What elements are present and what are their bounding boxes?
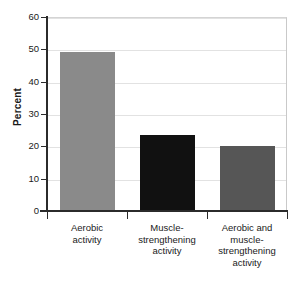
- gridline: [47, 18, 286, 19]
- y-axis-tick-label-wrap: 40: [13, 77, 39, 87]
- x-axis-label-line: activity: [47, 234, 127, 246]
- x-axis-label-line: strengthening: [127, 234, 207, 246]
- y-axis-tick-label-wrap: 20: [13, 141, 39, 151]
- x-axis-label-line: strengthening: [207, 245, 287, 257]
- bar-chart-figure: Percent 0102030405060 AerobicactivityMus…: [0, 0, 301, 286]
- x-axis-label-line: Muscle-: [127, 222, 207, 234]
- y-axis-tick-label: 60: [17, 12, 39, 22]
- y-axis-tick-label: 20: [17, 141, 39, 151]
- x-axis-label-line: Aerobic: [47, 222, 127, 234]
- category-separator-tick: [287, 212, 288, 219]
- y-axis-tick-label: 50: [17, 44, 39, 54]
- bar[interactable]: [140, 135, 195, 211]
- y-axis-tick-label-wrap: 0: [13, 206, 39, 216]
- y-axis-tick-label-wrap: 50: [13, 44, 39, 54]
- category-separator-tick: [127, 212, 128, 219]
- y-axis-tick-label-wrap: 60: [13, 12, 39, 22]
- category-separator-tick: [207, 212, 208, 219]
- y-axis-tick-label-wrap: 30: [13, 109, 39, 119]
- x-axis-category-label: Muscle-strengtheningactivity: [127, 222, 207, 257]
- y-axis-line: [46, 16, 48, 212]
- y-axis-tick-label: 10: [17, 174, 39, 184]
- x-axis-label-line: muscle-: [207, 234, 287, 246]
- x-axis-category-label: Aerobicactivity: [47, 222, 127, 245]
- x-axis-baseline: [40, 210, 288, 212]
- x-axis-label-line: activity: [127, 245, 207, 257]
- category-separator-tick: [47, 212, 48, 219]
- y-axis-tick-label: 30: [17, 109, 39, 119]
- x-axis-category-label: Aerobic andmuscle-strengtheningactivity: [207, 222, 287, 268]
- x-axis-label-line: activity: [207, 257, 287, 269]
- bar[interactable]: [220, 146, 275, 211]
- y-axis-tick-label-wrap: 10: [13, 174, 39, 184]
- y-axis-tick-label: 0: [17, 206, 39, 216]
- plot-area: [47, 17, 287, 211]
- bar[interactable]: [60, 52, 115, 211]
- y-axis-tick-label: 40: [17, 77, 39, 87]
- x-axis-label-line: Aerobic and: [207, 222, 287, 234]
